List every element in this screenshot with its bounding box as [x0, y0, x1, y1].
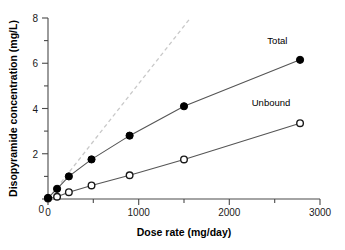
series-label-total: Total [267, 35, 287, 46]
series-label-unbound: Unbound [252, 97, 291, 108]
y-tick-label-6: 6 [32, 58, 38, 69]
data-point-unbound [297, 120, 304, 127]
y-axis-major-ticks [42, 18, 48, 199]
y-axis-group: 8 6 4 2 0 [32, 13, 48, 215]
x-tick-label-1000: 1000 [128, 207, 151, 218]
data-point-total [180, 103, 187, 110]
y-tick-label-4: 4 [32, 104, 38, 115]
data-point-total [88, 156, 95, 163]
data-point-total [65, 173, 72, 180]
data-point-unbound [126, 172, 133, 179]
y-axis-title: Disopyramide concentration (mg/L) [7, 20, 19, 197]
x-tick-label-0: 0 [45, 207, 51, 218]
series-line-total [48, 60, 300, 198]
y-tick-label-0: 0 [38, 204, 44, 215]
data-point-unbound [66, 189, 73, 196]
data-point-unbound [181, 156, 188, 163]
data-point-total [53, 185, 60, 192]
chart-figure: 8 6 4 2 0 0 1000 2000 3000 [0, 0, 345, 250]
x-tick-label-2000: 2000 [218, 207, 241, 218]
data-point-unbound [88, 182, 95, 189]
data-point-unbound [54, 193, 61, 200]
x-axis-title: Dose rate (mg/day) [137, 226, 232, 238]
x-tick-label-3000: 3000 [309, 207, 332, 218]
series-markers-total [44, 56, 303, 201]
y-tick-label-2: 2 [32, 149, 38, 160]
reference-dashed-line [48, 18, 190, 199]
series-line-unbound [48, 123, 300, 198]
y-tick-label-8: 8 [32, 13, 38, 24]
data-point-total [44, 194, 51, 201]
chart-canvas: 8 6 4 2 0 0 1000 2000 3000 [0, 0, 345, 250]
data-point-total [126, 132, 133, 139]
x-axis-minor-ticks [93, 199, 274, 203]
x-axis-group: 0 1000 2000 3000 [45, 199, 331, 218]
data-point-total [296, 56, 303, 63]
series-markers-unbound [45, 120, 304, 202]
